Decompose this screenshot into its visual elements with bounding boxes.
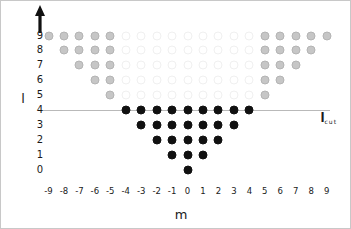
y-tick-label: 2	[37, 135, 43, 145]
data-point	[152, 31, 161, 40]
data-point	[168, 135, 177, 144]
x-tick-label: 1	[200, 187, 205, 196]
data-point	[183, 91, 192, 100]
data-point	[121, 91, 130, 100]
data-point	[229, 76, 238, 85]
data-point	[44, 31, 53, 40]
data-point	[152, 106, 161, 115]
data-point	[121, 61, 130, 70]
data-point	[199, 46, 208, 55]
data-point	[214, 91, 223, 100]
figure-container: -9-8-7-6-5-4-3-2-10123456789 9876543210 …	[0, 0, 351, 229]
x-tick-label: -2	[152, 187, 160, 196]
data-point	[59, 46, 68, 55]
data-point	[152, 46, 161, 55]
data-point	[214, 61, 223, 70]
y-tick-label: 8	[37, 45, 43, 55]
data-point	[229, 61, 238, 70]
data-point	[245, 106, 254, 115]
data-point	[121, 76, 130, 85]
data-point	[152, 61, 161, 70]
x-tick-label: -5	[106, 187, 114, 196]
data-point	[183, 46, 192, 55]
data-point	[183, 150, 192, 159]
l-cut-label: lcut	[320, 112, 337, 124]
data-point	[90, 46, 99, 55]
data-point	[276, 76, 285, 85]
x-tick-label: 2	[216, 187, 221, 196]
x-tick-label: -9	[44, 187, 52, 196]
data-point	[183, 135, 192, 144]
x-tick-label: 3	[231, 187, 236, 196]
data-point	[199, 91, 208, 100]
x-tick-label: -4	[122, 187, 130, 196]
data-point	[260, 76, 269, 85]
y-tick-label: 5	[37, 90, 43, 100]
data-point	[106, 91, 115, 100]
y-tick-label: 3	[37, 120, 43, 130]
data-point	[137, 31, 146, 40]
y-tick-label: 7	[37, 60, 43, 70]
y-axis-arrow-icon	[33, 3, 47, 33]
data-point	[183, 106, 192, 115]
data-point	[260, 46, 269, 55]
data-point	[245, 91, 254, 100]
x-axis-title: m	[175, 208, 188, 221]
data-point	[229, 46, 238, 55]
data-point	[106, 31, 115, 40]
data-point	[152, 76, 161, 85]
data-point	[183, 76, 192, 85]
data-point	[291, 61, 300, 70]
data-point	[137, 46, 146, 55]
data-point	[245, 46, 254, 55]
x-tick-label: -7	[75, 187, 83, 196]
data-point	[152, 120, 161, 129]
y-tick-label: 0	[37, 165, 43, 175]
data-point	[307, 46, 316, 55]
data-point	[59, 31, 68, 40]
data-point	[168, 120, 177, 129]
data-point	[229, 106, 238, 115]
data-point	[245, 61, 254, 70]
data-point	[276, 46, 285, 55]
data-point	[245, 31, 254, 40]
data-point	[168, 106, 177, 115]
data-point	[137, 61, 146, 70]
y-axis-title: l	[21, 92, 25, 105]
data-point	[168, 46, 177, 55]
data-point	[307, 31, 316, 40]
data-point	[168, 91, 177, 100]
data-point	[214, 106, 223, 115]
x-tick-label: -1	[168, 187, 176, 196]
data-point	[168, 61, 177, 70]
data-point	[121, 106, 130, 115]
data-point	[168, 150, 177, 159]
data-point	[199, 61, 208, 70]
data-point	[214, 135, 223, 144]
data-point	[121, 46, 130, 55]
x-tick-label: 4	[247, 187, 252, 196]
x-tick-label: -3	[137, 187, 145, 196]
x-tick-label: 6	[278, 187, 283, 196]
x-tick-label: 0	[185, 187, 190, 196]
x-tick-label: 7	[293, 187, 298, 196]
y-tick-label: 4	[37, 105, 43, 115]
y-tick-label: 9	[37, 31, 43, 41]
data-point	[260, 31, 269, 40]
data-point	[168, 31, 177, 40]
data-point	[183, 165, 192, 174]
data-point	[199, 106, 208, 115]
data-point	[75, 31, 84, 40]
data-point	[245, 76, 254, 85]
x-tick-label: 8	[308, 187, 313, 196]
data-point	[229, 31, 238, 40]
data-point	[137, 106, 146, 115]
data-point	[276, 61, 285, 70]
data-point	[106, 61, 115, 70]
data-point	[260, 91, 269, 100]
y-tick-label: 6	[37, 75, 43, 85]
data-point	[90, 76, 99, 85]
data-point	[214, 120, 223, 129]
y-tick-label: 1	[37, 150, 43, 160]
data-point	[106, 76, 115, 85]
